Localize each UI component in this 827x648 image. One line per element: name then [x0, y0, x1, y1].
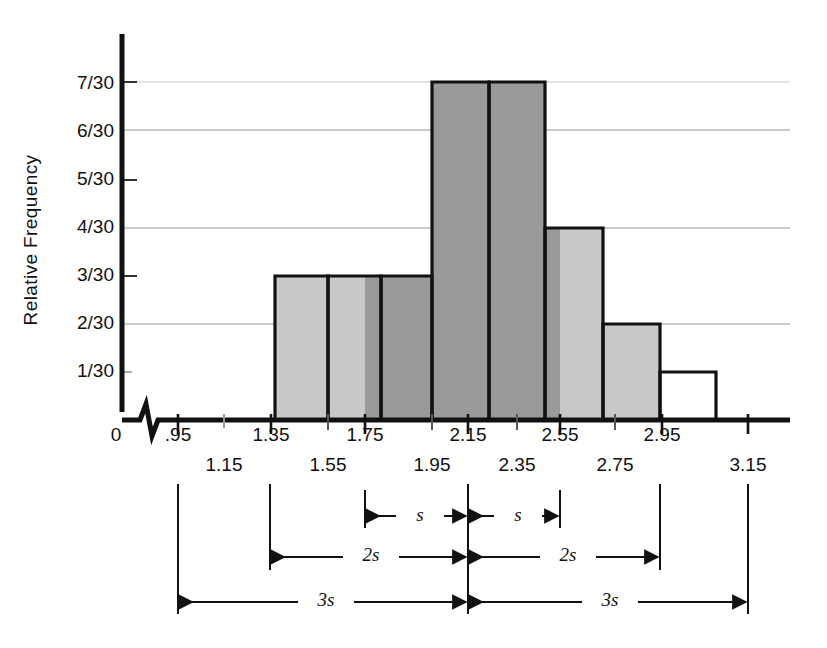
bracket-label-2s-right: 2s — [540, 544, 596, 566]
x-tick-label-215: 2.15 — [436, 424, 500, 446]
x-tick-label-0: 0 — [96, 424, 136, 446]
bracket-arrows — [180, 516, 746, 602]
x-tick-label-275: 2.75 — [583, 454, 647, 476]
histogram-bar — [660, 372, 716, 420]
bracket-label-2s-left: 2s — [343, 544, 399, 566]
x-tick-label-195: 1.95 — [400, 454, 464, 476]
x-tick-label-295: 2.95 — [630, 424, 694, 446]
histogram-bar — [603, 324, 660, 420]
bracket-label-3s-right: 3s — [582, 589, 638, 611]
x-tick-label-315: 3.15 — [716, 454, 780, 476]
histogram-figure: Relative Frequency 7/30 6/30 5/30 4/30 3… — [0, 0, 827, 648]
shaded-region-overlay — [365, 60, 560, 425]
x-tick-label-135: 1.35 — [239, 424, 303, 446]
plot-canvas — [0, 0, 827, 648]
x-tick-label-175: 1.75 — [333, 424, 397, 446]
bracket-label-s-left: s — [396, 504, 444, 526]
bracket-label-s-right: s — [494, 504, 542, 526]
bracket-label-3s-left: 3s — [298, 589, 354, 611]
x-tick-label-095: .95 — [153, 424, 203, 446]
x-tick-label-115: 1.15 — [192, 454, 256, 476]
bracket-guidelines — [178, 484, 748, 614]
x-tick-label-255: 2.55 — [528, 424, 592, 446]
x-tick-label-155: 1.55 — [296, 454, 360, 476]
x-tick-label-235: 2.35 — [485, 454, 549, 476]
histogram-bar — [275, 276, 328, 420]
